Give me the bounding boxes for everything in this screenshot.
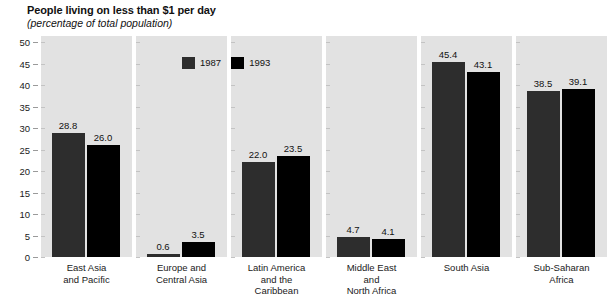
legend-label: 1993 [249,58,270,68]
gridline-stub [421,214,425,215]
gridline-stub [231,214,235,215]
gridline-stub [421,85,425,86]
gridline-stub [326,42,330,43]
gridline-stub [41,214,45,215]
y-axis-tick-label: 15 [4,188,30,197]
x-axis-category-label: Europe andCentral Asia [136,262,227,285]
gridline-stub [136,193,140,194]
y-axis-tick-mark [33,128,38,129]
x-axis-category-label: East Asiaand Pacific [41,262,132,285]
gridline-stub [136,214,140,215]
gridline-stub [421,64,425,65]
y-axis-tick-label: 35 [4,102,30,111]
gridline-stub [136,257,140,258]
bar [337,237,370,257]
gridline-stub [231,171,235,172]
chart-subtitle: (percentage of total population) [27,17,587,30]
gridline-stub [421,42,425,43]
chart-panel: 38.539.1 [516,36,607,257]
legend-item-1993: 1993 [231,57,270,69]
y-axis-tick-mark [33,150,38,151]
gridline-stub [231,193,235,194]
category-label-line: Sub-Saharan [516,262,607,274]
gridline-stub [136,150,140,151]
gridline-stub [421,236,425,237]
gridline-stub [421,257,425,258]
bar-value-label: 4.1 [368,227,409,237]
gridline-stub [231,107,235,108]
category-label-line: East Asia [41,262,132,274]
bar [277,156,310,257]
category-label-line: Europe and [136,262,227,274]
chart-panel: 45.443.1 [421,36,512,257]
gridline-stub [421,150,425,151]
gridline-stub [41,85,45,86]
gridline-stub [421,107,425,108]
gridline-stub [136,236,140,237]
gridline-stub [41,64,45,65]
gridline-stub [231,85,235,86]
gridline-stub [136,171,140,172]
bar [432,62,465,257]
bar-value-label: 3.5 [178,230,219,240]
legend-item-1987: 1987 [182,57,221,69]
legend-swatch-icon [231,57,244,69]
gridline-stub [41,193,45,194]
gridline-stub [326,150,330,151]
x-axis-category-labels: East Asiaand PacificEurope andCentral As… [41,262,607,302]
category-label-line: and [326,274,417,286]
gridline-stub [41,128,45,129]
gridline-stub [231,150,235,151]
y-axis-tick-label: 25 [4,145,30,154]
gridline-stub [326,107,330,108]
gridline-stub [136,64,140,65]
category-label-line: North Africa [326,285,417,297]
gridline-stub [326,257,330,258]
category-label-line: Latin America [231,262,322,274]
bar [147,254,180,257]
y-axis-tick-label: 5 [4,231,30,240]
chart-panel: 28.826.0 [41,36,132,257]
gridline-stub [136,107,140,108]
gridline-stub [326,128,330,129]
bar-value-label: 28.8 [48,121,89,131]
bar [182,242,215,257]
y-axis-tick-mark [33,193,38,194]
gridline-stub [326,193,330,194]
chart-panels: 28.826.00.63.522.023.54.74.145.443.138.5… [41,36,607,257]
x-axis-category-label: Middle EastandNorth Africa [326,262,417,297]
gridline-stub [231,236,235,237]
gridline-stub [231,42,235,43]
bar [467,72,500,257]
bar-value-label: 43.1 [463,60,504,70]
y-axis-tick-mark [33,64,38,65]
gridline-stub [41,107,45,108]
title-block: People living on less than $1 per day (p… [27,4,587,30]
y-axis-tick-mark [33,107,38,108]
y-axis-tick-label: 10 [4,210,30,219]
gridline-stub [516,64,520,65]
y-axis-tick-mark [33,171,38,172]
gridline-stub [41,42,45,43]
gridline-stub [136,128,140,129]
bar [562,89,595,257]
chart-legend: 1987 1993 [182,57,270,69]
gridline-stub [41,150,45,151]
gridline-stub [326,214,330,215]
gridline-stub [516,150,520,151]
gridline-stub [516,107,520,108]
bar [52,133,85,257]
gridline-stub [421,171,425,172]
y-axis-tick-mark [33,85,38,86]
y-axis: 05101520253035404550 [0,36,41,257]
gridline-stub [516,257,520,258]
bar-value-label: 26.0 [83,133,124,143]
category-label-line: and Pacific [41,274,132,286]
y-axis-tick-label: 30 [4,124,30,133]
y-axis-tick-mark [33,214,38,215]
gridline-stub [516,236,520,237]
category-label-line: Middle East [326,262,417,274]
x-axis-category-label: Latin Americaand theCaribbean [231,262,322,297]
y-axis-tick-mark [33,257,38,258]
gridline-stub [421,193,425,194]
